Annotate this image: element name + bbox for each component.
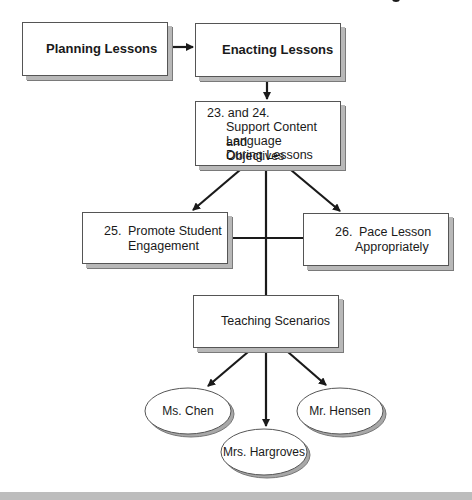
node-label: Teaching Scenarios <box>221 314 330 329</box>
node-number: 23. and 24. <box>207 106 270 121</box>
node-line-1: Promote Student <box>128 224 222 239</box>
node-pace-lesson: 26. Pace Lesson Appropriately <box>303 213 449 266</box>
node-number: 25. <box>104 224 121 239</box>
node-label: Planning Lessons <box>46 41 157 56</box>
node-promote-engagement: 25. Promote Student Engagement <box>82 212 228 264</box>
node-line-2: Appropriately <box>355 240 429 255</box>
node-enacting-lessons: Enacting Lessons <box>195 23 341 77</box>
arrow-scenarios-to-chen <box>208 352 248 386</box>
node-label: Enacting Lessons <box>222 42 333 57</box>
arrow-support-to-engagement <box>193 170 240 210</box>
page-bottom-band <box>0 492 472 500</box>
node-support-objectives: 23. and 24. Support Content and Language… <box>195 101 341 166</box>
node-line-1: Pace Lesson <box>359 225 431 240</box>
arrow-support-to-pace <box>291 170 340 211</box>
ellipse-label-hensen: Mr. Hensen <box>309 404 370 418</box>
node-line-3: During Lessons <box>226 148 313 163</box>
arrow-scenarios-to-hensen <box>288 352 326 385</box>
node-number: 26. <box>335 225 352 240</box>
ellipse-label-hargroves: Mrs. Hargroves <box>223 445 305 459</box>
node-line-2: Engagement <box>128 239 199 254</box>
node-planning-lessons: Planning Lessons <box>22 22 168 76</box>
ellipse-label-chen: Ms. Chen <box>162 404 213 418</box>
node-teaching-scenarios: Teaching Scenarios <box>193 295 339 348</box>
